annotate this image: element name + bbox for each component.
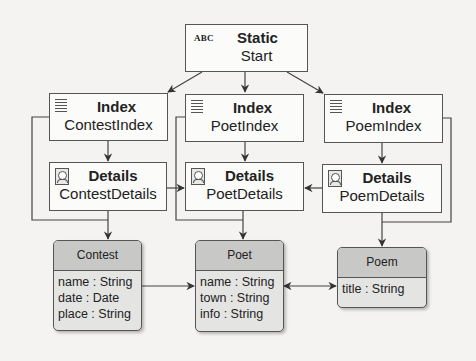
attribute: title : String [342, 281, 422, 297]
class-name: Poet [196, 241, 283, 271]
class-attributes: name : String date : Date place : String [54, 271, 141, 325]
class-attributes: title : String [338, 278, 426, 300]
node-name: ContestIndex [50, 116, 167, 134]
class-name: Poem [338, 248, 426, 278]
attribute: name : String [200, 274, 279, 290]
attribute: place : String [58, 306, 137, 322]
static-text-icon: ABC [194, 33, 214, 43]
details-icon [328, 170, 342, 187]
node-name: PoemIndex [325, 117, 442, 135]
list-icon [55, 99, 67, 113]
details-node-poet[interactable]: Details PoetDetails [185, 162, 304, 211]
node-name: ContestDetails [50, 185, 166, 203]
node-kind: Index [325, 99, 442, 117]
class-name: Contest [54, 241, 141, 271]
list-icon [191, 100, 203, 114]
attribute: town : String [200, 290, 279, 306]
class-contest[interactable]: Contest name : String date : Date place … [53, 240, 142, 331]
details-node-contest[interactable]: Details ContestDetails [49, 162, 167, 211]
node-kind: Index [186, 99, 303, 117]
details-node-poem[interactable]: Details PoemDetails [322, 164, 442, 213]
attribute: date : Date [58, 290, 137, 306]
start-node[interactable]: ABC Static Start [185, 24, 308, 72]
edge-start-poemindex [287, 72, 323, 93]
class-poem[interactable]: Poem title : String [337, 247, 427, 308]
index-node-contest[interactable]: Index ContestIndex [49, 93, 168, 141]
class-poet[interactable]: Poet name : String town : String info : … [195, 240, 284, 332]
attribute: info : String [200, 306, 279, 322]
node-name: Start [186, 47, 307, 65]
node-kind: Index [50, 98, 167, 116]
details-icon [55, 168, 69, 185]
node-name: PoetDetails [186, 185, 303, 203]
index-node-poet[interactable]: Index PoetIndex [185, 94, 304, 142]
details-icon [191, 168, 205, 185]
index-node-poem[interactable]: Index PoemIndex [324, 94, 443, 143]
list-icon [330, 100, 342, 114]
edge-start-contestindex [168, 72, 202, 92]
node-name: PoetIndex [186, 117, 303, 135]
node-name: PoemDetails [323, 187, 441, 205]
class-attributes: name : String town : String info : Strin… [196, 271, 283, 325]
attribute: name : String [58, 274, 137, 290]
